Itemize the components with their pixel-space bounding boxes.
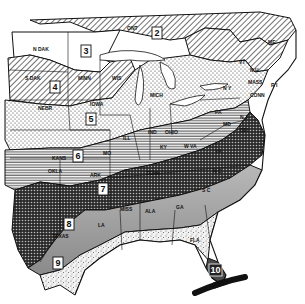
state-label-mich: MICH [150, 92, 163, 98]
svg-text:9: 9 [55, 258, 60, 268]
map-svg: ONT N DAK S DAK NEBR MINN WIS IOWA MICH … [0, 0, 305, 304]
state-label-miss: MISS [120, 206, 133, 212]
state-label-mass: MASS [248, 79, 263, 85]
state-label-nebr: NEBR [38, 105, 53, 111]
zone-label-10: 10 [209, 264, 222, 276]
svg-text:3: 3 [83, 46, 88, 56]
zone-label-3: 3 [81, 45, 91, 57]
state-label-ky: KY [160, 144, 168, 150]
svg-text:2: 2 [154, 28, 159, 38]
state-label-vt: VT [239, 59, 245, 65]
svg-text:8: 8 [66, 219, 71, 229]
zone-label-7: 7 [98, 183, 108, 195]
state-label-ind: IND [148, 129, 157, 135]
zone-label-8: 8 [64, 218, 74, 230]
zone-label-4: 4 [50, 81, 60, 93]
lake-superior [100, 51, 165, 61]
hardiness-zone-map: ONT N DAK S DAK NEBR MINN WIS IOWA MICH … [0, 0, 305, 304]
state-label-md: MD [223, 121, 231, 127]
state-label-pa: PA [215, 109, 222, 115]
state-label-del: DEL [240, 127, 250, 133]
state-label-nc: N C [213, 168, 222, 174]
state-label-sdak: S DAK [25, 75, 41, 81]
state-label-ill: ILL [123, 135, 131, 141]
state-label-ont: ONT [127, 25, 138, 31]
state-label-conn: CONN [250, 92, 265, 98]
state-label-fla: FLA [190, 237, 200, 243]
svg-text:6: 6 [75, 151, 80, 161]
state-label-ala: ALA [145, 208, 156, 214]
state-label-la: LA [98, 222, 105, 228]
state-label-nj: N J [240, 114, 248, 120]
state-label-texas: TEXAS [52, 233, 69, 239]
state-label-okla: OKLA [48, 168, 63, 174]
zone-label-5: 5 [86, 113, 96, 125]
state-label-nh: N H [250, 67, 259, 73]
state-label-ohio: OHIO [165, 129, 178, 135]
zone-label-9: 9 [53, 257, 63, 269]
state-label-iowa: IOWA [90, 101, 104, 107]
state-label-wis: WIS [112, 75, 122, 81]
zone-label-6: 6 [73, 150, 83, 162]
state-label-kans: KANS [52, 155, 67, 161]
svg-text:5: 5 [88, 114, 93, 124]
svg-text:4: 4 [52, 82, 57, 92]
state-label-tenn: TENN [146, 170, 160, 176]
state-label-mo: MO [103, 150, 111, 156]
zone-label-2: 2 [152, 27, 162, 39]
svg-text:10: 10 [210, 265, 220, 275]
state-label-ark: ARK [90, 172, 101, 178]
state-label-ndak: N DAK [33, 46, 49, 52]
state-label-sc: S C [202, 187, 211, 193]
state-label-va: VA [215, 148, 222, 154]
state-label-wva: W VA [184, 143, 197, 149]
state-label-ri: R I [271, 82, 278, 88]
state-label-ny: N Y [223, 85, 232, 91]
state-label-me: ME [268, 39, 276, 45]
state-label-ga: GA [176, 204, 184, 210]
state-label-minn: MINN [78, 75, 91, 81]
svg-text:7: 7 [100, 184, 105, 194]
